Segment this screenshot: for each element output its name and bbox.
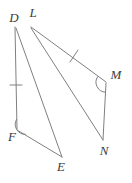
vertex-label-l: L — [28, 5, 36, 20]
triangle-lmn — [31, 27, 106, 140]
geometry-figure: D L M N F E — [0, 0, 132, 183]
angle-marks — [15, 77, 105, 135]
segment-lm — [31, 27, 106, 82]
vertex-label-m: M — [110, 67, 123, 82]
vertex-label-d: D — [8, 10, 19, 25]
segment-de — [16, 28, 62, 157]
vertex-label-n: N — [99, 143, 110, 158]
segment-df — [15, 27, 17, 129]
angle-arc-m-icon — [96, 77, 106, 93]
vertex-label-f: F — [7, 129, 17, 144]
triangle-dfe — [15, 27, 62, 157]
geometry-canvas: D L M N F E — [0, 0, 132, 183]
congruence-ticks — [10, 50, 78, 85]
vertex-label-e: E — [56, 159, 65, 174]
segment-ln — [31, 28, 103, 140]
